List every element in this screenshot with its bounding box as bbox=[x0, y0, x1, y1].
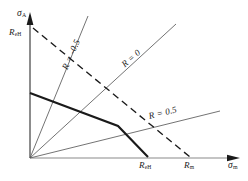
marker-Rm-x-subscript: m bbox=[190, 164, 194, 170]
endurance-limit-line bbox=[30, 93, 148, 157]
marker-label-Rm-x-axis: Rm bbox=[184, 161, 194, 171]
mean-stress-axis-label-subscript: m bbox=[233, 164, 238, 170]
ray-lines-group bbox=[30, 16, 220, 158]
mean-stress-axis-label: σm bbox=[228, 161, 237, 171]
marker-ReH-y-subscript: eH bbox=[15, 31, 22, 37]
stress-amplitude-axis-label-subscript: A bbox=[22, 12, 26, 18]
endurance-limit-line-group bbox=[30, 93, 148, 157]
marker-ReH-x-subscript: eH bbox=[145, 164, 152, 170]
stress-amplitude-axis-label: σA bbox=[17, 9, 26, 19]
axis-group bbox=[27, 12, 240, 161]
haigh-diagram-figure: σA σm ReH ReH Rm R = -0.5 R = 0 R = 0.5 bbox=[0, 0, 248, 181]
marker-label-ReH-y-axis: ReH bbox=[9, 28, 21, 38]
diagram-canvas bbox=[0, 0, 248, 181]
ray-line-R-minus-0p5 bbox=[30, 16, 88, 158]
stress-amplitude-axis-arrow bbox=[27, 12, 34, 25]
marker-label-ReH-x-axis: ReH bbox=[139, 161, 151, 171]
